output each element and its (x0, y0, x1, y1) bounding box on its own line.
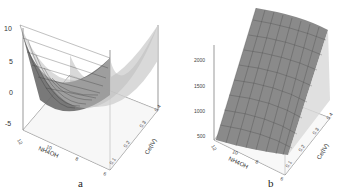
z-tick: 1500 (194, 83, 205, 89)
z-tick: 10 (4, 25, 12, 32)
x-tick: 6 (103, 170, 108, 177)
z-tick: 5 (9, 58, 13, 65)
panel-label-a: a (78, 177, 83, 189)
surface-plot-b: 2000 1500 1000 500 12 10 8 6 NH4OH 0.1 0… (170, 0, 339, 195)
z-axis-ticks-a: 10 5 0 -5 (4, 25, 13, 127)
chart-panel-a: 10 5 0 -5 12 10 8 6 NH4OH 0.1 0.2 0.3 0.… (0, 0, 170, 195)
z-tick: 500 (197, 133, 206, 139)
z-tick: 2000 (194, 57, 205, 63)
z-tick: -5 (5, 120, 11, 127)
surface-plot-a: 10 5 0 -5 12 10 8 6 NH4OH 0.1 0.2 0.3 0.… (0, 0, 170, 195)
panel-label-b: b (268, 177, 274, 189)
x-tick: 12 (16, 138, 24, 146)
x-tick: 8 (75, 155, 80, 162)
z-tick: 1000 (194, 108, 205, 114)
y-axis-title-b: Ce(IV) (316, 142, 330, 160)
x-tick: 6 (280, 175, 285, 182)
y-tick: 0.4 (153, 103, 162, 112)
z-tick: 0 (9, 89, 13, 96)
x-tick: 10 (232, 148, 239, 156)
y-tick: 0.4 (325, 111, 334, 120)
z-axis-ticks-b: 2000 1500 1000 500 (194, 57, 206, 139)
y-axis-title-a: Ce(IV) (144, 137, 158, 155)
x-axis-title-b: NH4OH (228, 155, 250, 169)
chart-panel-b: 2000 1500 1000 500 12 10 8 6 NH4OH 0.1 0… (170, 0, 339, 195)
x-tick: 12 (210, 144, 218, 152)
